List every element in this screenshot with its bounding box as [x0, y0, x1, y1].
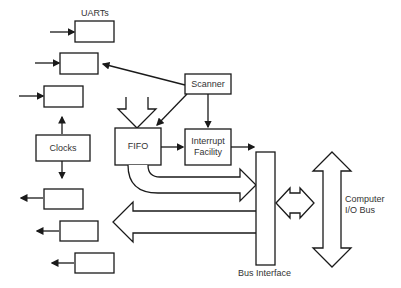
bus-interface-bar — [256, 152, 275, 265]
scanner-to-fifo-arrow — [157, 94, 187, 125]
interrupt-facility-label: Interrupt Facility — [185, 136, 231, 158]
uart-input-box-2 — [60, 53, 98, 74]
interrupt-label-line1: Interrupt — [185, 136, 231, 147]
computer-bus-label-line1: Computer — [345, 194, 385, 205]
uart-input-box-3 — [44, 86, 83, 107]
scanner-label: Scanner — [185, 74, 231, 94]
bus-interface-label: Bus Interface — [238, 268, 291, 278]
computer-bus-label-line2: I/O Bus — [345, 205, 385, 216]
uart-output-box-2 — [60, 221, 98, 241]
fifo-label: FIFO — [115, 128, 161, 165]
uarts-label: UARTs — [81, 8, 109, 18]
uart-input-box-1 — [75, 21, 114, 42]
bus-link-double-arrow — [276, 188, 314, 218]
scanner-to-uart-arrow — [103, 64, 185, 85]
clocks-label: Clocks — [36, 135, 90, 161]
bus-to-uarts-wide-arrow — [113, 202, 256, 242]
interrupt-label-line2: Facility — [185, 147, 231, 158]
uart-output-box-3 — [75, 253, 114, 273]
fifo-input-wide-arrow — [118, 97, 156, 128]
fifo-to-bus-wide-arrow — [128, 165, 256, 201]
uart-output-box-1 — [44, 189, 83, 209]
computer-io-bus-label: Computer I/O Bus — [345, 194, 385, 216]
